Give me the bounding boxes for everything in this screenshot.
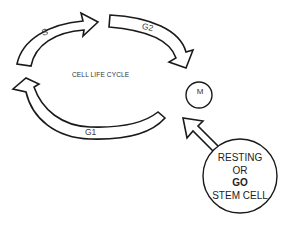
diagram-title: CELL LIFE CYCLE (72, 71, 129, 78)
g1-phase-label: G1 (85, 128, 96, 137)
g2-phase-label: G2 (141, 22, 154, 33)
stem-line-1: RESTING (202, 152, 278, 165)
s-phase-arrow (17, 13, 98, 66)
stem-line-2: OR (202, 165, 278, 178)
m-phase-label: M (190, 87, 210, 96)
stem-line-3: GO (202, 177, 278, 190)
stem-line-4: STEM CELL (202, 190, 278, 203)
stem-cell-label: RESTING OR GO STEM CELL (202, 152, 278, 202)
